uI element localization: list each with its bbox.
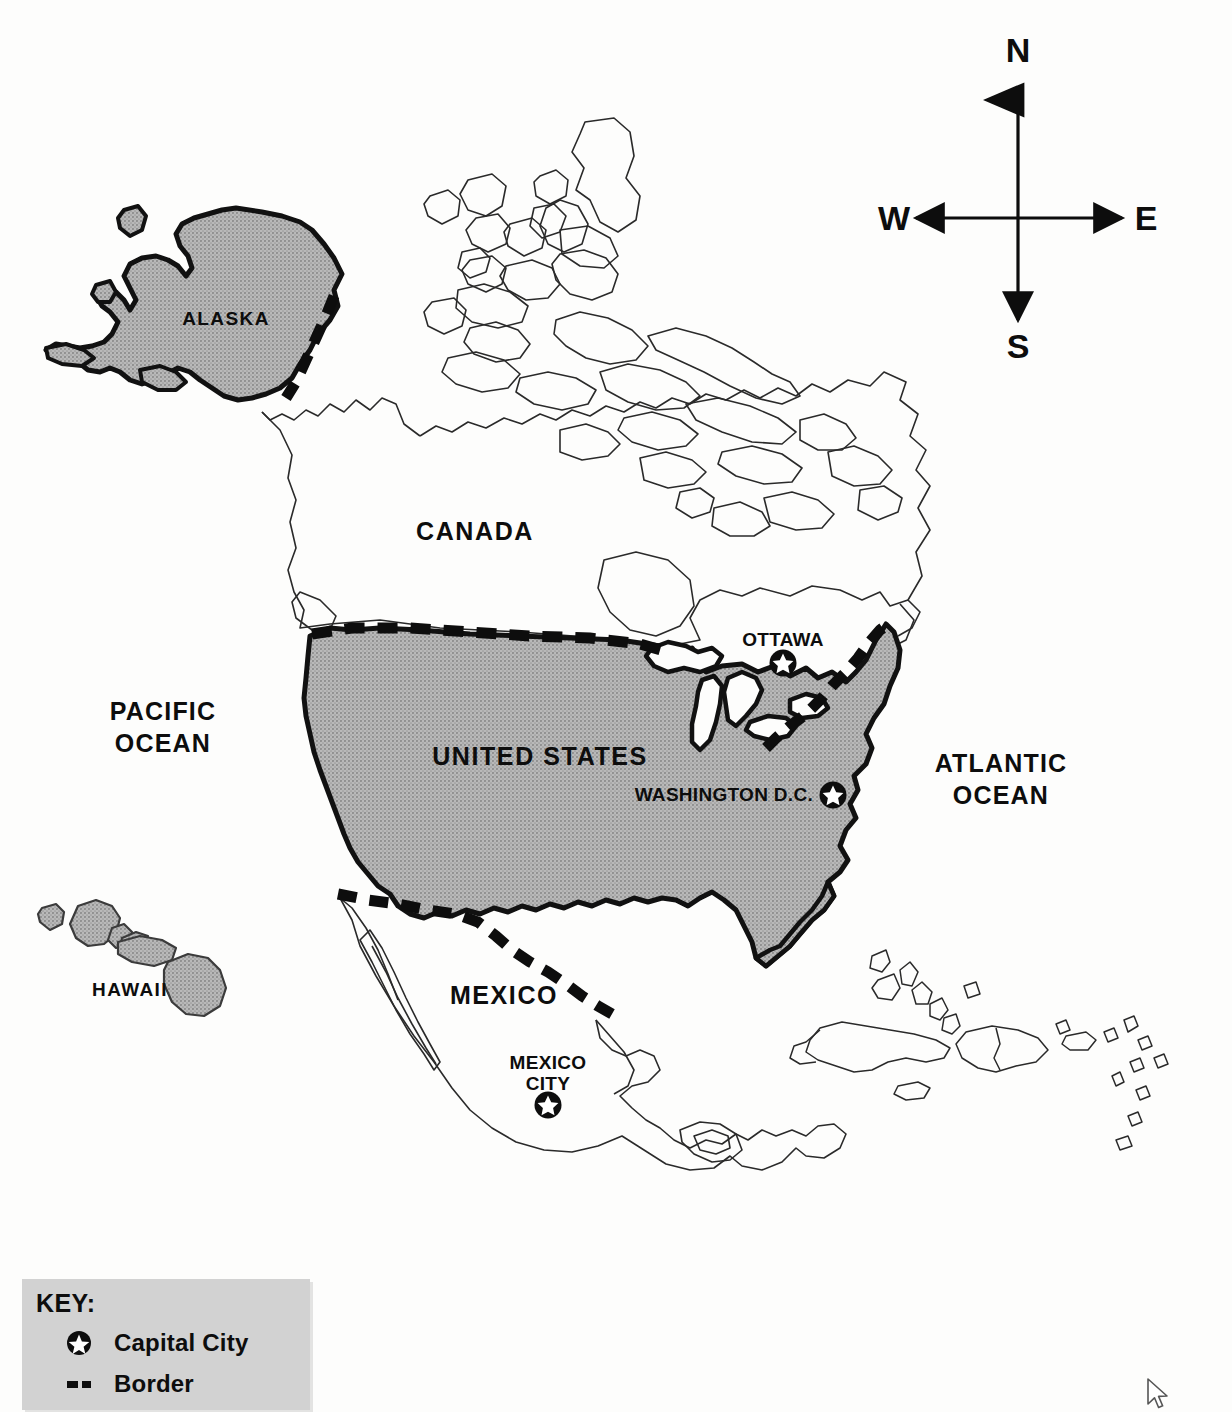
capital-label-mexico-city-line1: MEXICO — [510, 1052, 587, 1073]
key-item-capital-city: Capital City — [66, 1329, 248, 1357]
border-dashed-line-icon — [66, 1377, 100, 1391]
country-label-mexico: MEXICO — [450, 981, 558, 1009]
country-label-canada: CANADA — [416, 517, 534, 545]
key-item-border: Border — [66, 1370, 194, 1398]
ocean-label-pacific-line2: OCEAN — [115, 729, 211, 757]
country-label-united-states: UNITED STATES — [432, 742, 648, 770]
alaska-shape — [46, 208, 342, 400]
key-label-capital-city: Capital City — [114, 1329, 248, 1357]
ocean-label-pacific-line1: PACIFIC — [110, 697, 217, 725]
key-label-border: Border — [114, 1370, 194, 1398]
key-title: KEY: — [36, 1289, 95, 1318]
canada-landmass — [262, 118, 930, 648]
hawaii-island-hawaii — [164, 954, 226, 1016]
map-container: N S W E CANADA UNITED STATES MEXICO ALAS… — [0, 0, 1232, 1412]
hawaii-island-kauai — [38, 904, 64, 930]
state-label-alaska: ALASKA — [182, 308, 270, 329]
compass-label-east: E — [1135, 199, 1158, 237]
capital-label-washington-dc: WASHINGTON D.C. — [635, 784, 813, 805]
map-graphic: N S W E CANADA UNITED STATES MEXICO ALAS… — [0, 0, 1232, 1412]
alaska-landmass — [46, 206, 342, 400]
compass-rose: N S W E — [878, 31, 1157, 365]
ocean-label-atlantic-line2: OCEAN — [953, 781, 1049, 809]
capital-marker-mexico-city[interactable]: MEXICO CITY — [510, 1052, 587, 1119]
capital-city-icon — [66, 1330, 100, 1356]
compass-label-west: W — [878, 199, 911, 237]
caribbean-islands — [790, 950, 1168, 1150]
state-label-hawaii: HAWAII — [92, 979, 168, 1000]
map-key-legend: KEY: Capital City Border — [22, 1279, 310, 1410]
compass-label-north: N — [1006, 31, 1031, 69]
capital-label-ottawa: OTTAWA — [742, 629, 824, 650]
capital-label-mexico-city-line2: CITY — [526, 1073, 571, 1094]
compass-label-south: S — [1007, 327, 1030, 365]
ocean-label-atlantic-line1: ATLANTIC — [935, 749, 1068, 777]
